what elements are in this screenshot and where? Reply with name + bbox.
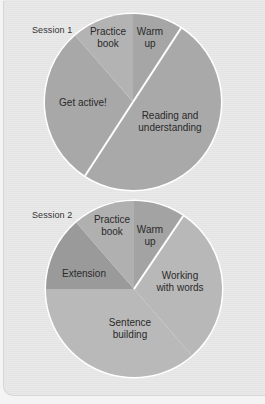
session-2-pie-chart: WarmupWorkingwith wordsSentencebuildingE…: [0, 0, 265, 404]
slice-label: Extension: [62, 268, 106, 279]
slice-label: Sentencebuilding: [109, 317, 152, 340]
slice-label: Workingwith words: [155, 270, 203, 293]
